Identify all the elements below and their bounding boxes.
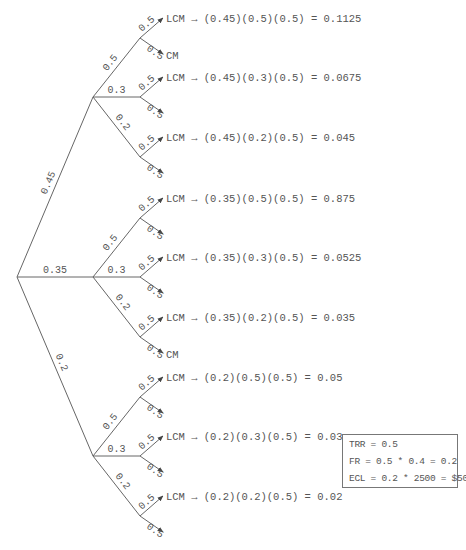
outcome-lcm: LCM → (0.35)(0.5)(0.5) = 0.875 bbox=[166, 193, 355, 205]
prob-label-level1: 0.35 bbox=[43, 265, 67, 276]
prob-label-level2: 0.3 bbox=[107, 265, 125, 276]
branch-level2 bbox=[93, 277, 140, 337]
branch-level2 bbox=[93, 97, 140, 157]
branch-level2 bbox=[93, 456, 140, 516]
prob-label-leaf: 0.5 bbox=[136, 253, 157, 273]
outcome-cm: CM bbox=[166, 50, 179, 62]
prob-label-leaf: 0.5 bbox=[136, 194, 157, 214]
outcome-lcm: LCM → (0.45)(0.2)(0.5) = 0.045 bbox=[166, 132, 355, 144]
prob-label-leaf: 0.5 bbox=[136, 313, 157, 333]
outcome-lcm: LCM → (0.35)(0.3)(0.5) = 0.0525 bbox=[166, 252, 361, 264]
prob-label-leaf: 0.5 bbox=[136, 73, 157, 93]
branch-level1 bbox=[17, 277, 93, 456]
branch-level1 bbox=[17, 97, 93, 277]
outcome-lcm: LCM → (0.35)(0.2)(0.5) = 0.035 bbox=[166, 312, 355, 324]
outcome-cm: CM bbox=[166, 349, 179, 361]
prob-label-leaf: 0.5 bbox=[144, 282, 165, 301]
prob-label-level1: 0.45 bbox=[39, 170, 58, 196]
outcome-lcm: LCM → (0.2)(0.3)(0.5) = 0.03 bbox=[166, 431, 342, 443]
prob-label-leaf: 0.5 bbox=[144, 461, 165, 480]
prob-label-leaf: 0.5 bbox=[136, 133, 157, 153]
prob-label-leaf: 0.5 bbox=[136, 14, 157, 34]
outcome-lcm: LCM → (0.2)(0.5)(0.5) = 0.05 bbox=[166, 372, 342, 384]
prob-label-level2: 0.2 bbox=[113, 471, 133, 492]
prob-label-leaf: 0.5 bbox=[144, 342, 165, 361]
prob-label-level2: 0.5 bbox=[101, 232, 121, 253]
prob-label-level2: 0.5 bbox=[101, 52, 121, 73]
trr-text: TRR = 0.5 bbox=[349, 436, 457, 453]
prob-label-leaf: 0.5 bbox=[136, 492, 157, 512]
prob-label-leaf: 0.5 bbox=[144, 43, 165, 62]
prob-label-leaf: 0.5 bbox=[144, 223, 165, 242]
outcome-lcm: LCM → (0.2)(0.2)(0.5) = 0.02 bbox=[166, 491, 342, 503]
prob-label-leaf: 0.5 bbox=[136, 432, 157, 452]
prob-label-leaf: 0.5 bbox=[144, 162, 165, 181]
prob-label-level2: 0.3 bbox=[107, 444, 125, 455]
outcome-lcm: LCM → (0.45)(0.5)(0.5) = 0.1125 bbox=[166, 13, 361, 25]
summary-box: TRR = 0.5 FR = 0.5 * 0.4 = 0.2 ECL = 0.2… bbox=[342, 434, 458, 488]
prob-label-level1: 0.2 bbox=[53, 352, 70, 373]
prob-label-level2: 0.5 bbox=[101, 411, 121, 432]
ecl-text: ECL = 0.2 * 2500 = $500 bbox=[349, 470, 457, 487]
prob-label-leaf: 0.5 bbox=[144, 102, 165, 121]
prob-label-leaf: 0.5 bbox=[144, 402, 165, 421]
prob-label-leaf: 0.5 bbox=[136, 373, 157, 393]
prob-label-level2: 0.3 bbox=[107, 85, 125, 96]
prob-label-leaf: 0.5 bbox=[144, 521, 165, 540]
prob-label-level2: 0.2 bbox=[113, 112, 133, 133]
fr-text: FR = 0.5 * 0.4 = 0.2 bbox=[349, 453, 457, 470]
prob-label-level2: 0.2 bbox=[113, 292, 133, 313]
outcome-lcm: LCM → (0.45)(0.3)(0.5) = 0.0675 bbox=[166, 72, 361, 84]
